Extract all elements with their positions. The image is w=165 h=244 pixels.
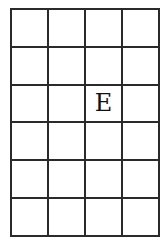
grid-cell-r3-c4 [123,86,160,124]
grid-cell-r5-c1 [12,161,49,199]
grid-cell-r6-c2 [49,199,86,237]
grid-cell-r6-c3 [86,199,123,237]
grid-cell-r1-c4 [123,10,160,48]
grid-cell-r6-c1 [12,199,49,237]
grid-cell-r1-c3 [86,10,123,48]
grid-cell-r5-c2 [49,161,86,199]
grid-cell-r2-c2 [49,48,86,86]
grid-cell-r3-c3-letter-e: E [86,86,123,124]
grid-cell-r3-c1 [12,86,49,124]
grid-cell-r2-c4 [123,48,160,86]
grid-cell-r2-c3 [86,48,123,86]
grid-cell-r1-c1 [12,10,49,48]
grid-cell-r4-c4 [123,123,160,161]
grid-cell-r6-c4 [123,199,160,237]
grid-cell-r5-c4 [123,161,160,199]
grid-cell-r3-c2 [49,86,86,124]
grid-cell-r4-c3 [86,123,123,161]
grid-cell-r4-c2 [49,123,86,161]
letter-grid: E [10,8,160,237]
grid-cell-r5-c3 [86,161,123,199]
grid-cell-r1-c2 [49,10,86,48]
grid-cell-r4-c1 [12,123,49,161]
grid-cell-r2-c1 [12,48,49,86]
